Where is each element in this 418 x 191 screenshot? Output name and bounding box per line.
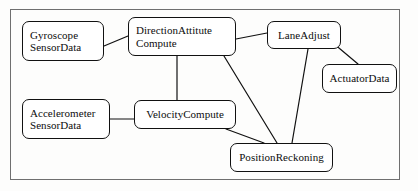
node-accelerometer-sensor-data[interactable]: AccelerometerSensorData <box>22 99 110 139</box>
node-position-reckoning[interactable]: PositionReckoning <box>230 143 333 172</box>
node-label: Accelerometer <box>30 107 95 120</box>
node-label: LaneAdjust <box>278 29 330 42</box>
diagram-canvas: GyroscopeSensorDataDirectionAttituteComp… <box>0 0 418 191</box>
edge-direction-to-laneadjust <box>236 33 267 39</box>
edge-velocity-to-position <box>226 129 264 143</box>
node-gyroscope-sensor-data[interactable]: GyroscopeSensorData <box>22 21 104 61</box>
node-label: SensorData <box>30 41 81 54</box>
node-label: Compute <box>136 37 177 50</box>
node-label: Gyroscope <box>30 29 78 42</box>
node-direction-attitute-compute[interactable]: DirectionAttituteCompute <box>128 17 236 56</box>
edge-gyroscope-to-direction <box>104 36 128 46</box>
node-label: SensorData <box>30 119 81 132</box>
node-label: VelocityCompute <box>146 108 224 121</box>
node-actuator-data[interactable]: ActuatorData <box>322 64 397 93</box>
edge-laneadjust-to-position <box>292 49 308 143</box>
node-velocity-compute[interactable]: VelocityCompute <box>134 100 236 129</box>
node-lane-adjust[interactable]: LaneAdjust <box>267 21 341 49</box>
edge-direction-to-position <box>224 56 277 143</box>
node-label: ActuatorData <box>330 72 390 85</box>
node-label: DirectionAttitute <box>136 24 212 37</box>
node-label: PositionReckoning <box>239 151 324 164</box>
